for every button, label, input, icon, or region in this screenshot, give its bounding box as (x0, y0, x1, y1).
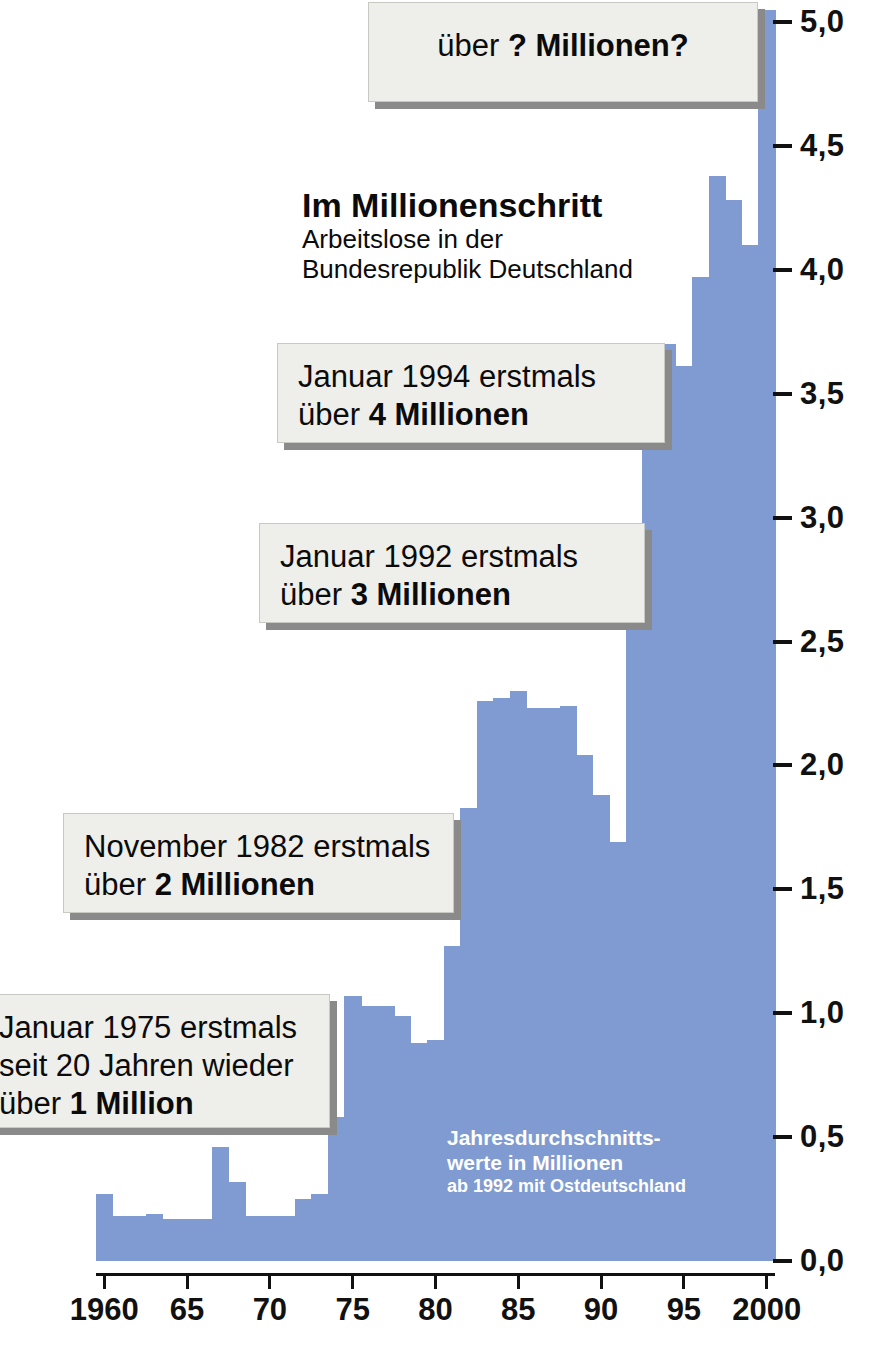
y-tick-label-0-0: 0,0 (800, 1245, 845, 1276)
bar-1994 (659, 344, 676, 1261)
callout-question: über ? Millionen? (368, 2, 758, 102)
bar-1978 (394, 1016, 411, 1261)
y-tick-mark-2-5 (773, 640, 792, 644)
bar-1971 (278, 1216, 295, 1261)
bar-1969 (245, 1216, 262, 1261)
bar-1961 (113, 1216, 130, 1261)
x-tick-mark-1985 (517, 1273, 520, 1289)
callout-1982-emphasis: 2 Millionen (155, 867, 315, 902)
callout-1992: Januar 1992 erstmals über 3 Millionen (259, 523, 645, 623)
footnote-line3: ab 1992 mit Ostdeutschland (447, 1176, 686, 1197)
footnote-line2: werte in Millionen (447, 1151, 686, 1176)
callout-1994-emphasis: 4 Millionen (369, 397, 529, 432)
y-tick-mark-0-5 (773, 1135, 792, 1139)
callout-1992-text: über (280, 577, 351, 612)
y-tick-mark-0-0 (773, 1259, 792, 1263)
x-tick-label-1960: 1960 (70, 1294, 139, 1325)
callout-1975-line3: über 1 Million (0, 1085, 309, 1123)
callout-1994-line2: über 4 Millionen (298, 396, 644, 434)
y-tick-mark-2-0 (773, 763, 792, 767)
bar-1974 (328, 1117, 345, 1261)
y-tick-label-5-0: 5,0 (800, 6, 845, 37)
x-tick-label-1985: 85 (501, 1294, 535, 1325)
x-tick-label-1990: 90 (584, 1294, 618, 1325)
bar-1965 (179, 1219, 196, 1261)
bar-1980 (427, 1040, 444, 1261)
x-tick-mark-1965 (186, 1273, 189, 1289)
y-tick-label-2-5: 2,5 (800, 626, 845, 657)
callout-question-text: über (437, 28, 508, 63)
y-tick-label-4-0: 4,0 (800, 254, 845, 285)
callout-1994: Januar 1994 erstmals über 4 Millionen (277, 343, 665, 443)
callout-1982-line1: November 1982 erstmals (84, 828, 433, 866)
bar-1967 (212, 1147, 229, 1261)
bar-1999 (742, 245, 759, 1261)
callout-1975: Januar 1975 erstmals seit 20 Jahren wied… (0, 994, 330, 1128)
x-tick-mark-1975 (351, 1273, 354, 1289)
callout-1982-line2: über 2 Millionen (84, 866, 433, 904)
callout-1975-line1: Januar 1975 erstmals (0, 1009, 309, 1047)
bar-1975 (344, 996, 361, 1261)
y-tick-label-3-5: 3,5 (800, 378, 845, 409)
bar-1964 (162, 1219, 179, 1261)
footnote-line1: Jahresdurchschnitts- (447, 1126, 686, 1151)
x-tick-mark-1970 (268, 1273, 271, 1289)
x-tick-label-1980: 80 (418, 1294, 452, 1325)
callout-1992-emphasis: 3 Millionen (351, 577, 511, 612)
x-tick-label-1970: 70 (253, 1294, 287, 1325)
y-tick-mark-4-5 (773, 144, 792, 148)
y-tick-label-2-0: 2,0 (800, 749, 845, 780)
callout-question-emphasis: ? Millionen? (508, 28, 689, 63)
bar-1966 (195, 1219, 212, 1261)
bar-1981 (444, 946, 461, 1261)
bar-1996 (692, 277, 709, 1261)
chart-subtitle-line1: Arbeitslose in der (302, 224, 633, 254)
x-tick-mark-1990 (600, 1273, 603, 1289)
bar-1997 (709, 176, 726, 1261)
y-tick-label-3-0: 3,0 (800, 502, 845, 533)
x-tick-mark-2000 (765, 1273, 768, 1289)
bar-1973 (311, 1194, 328, 1261)
y-tick-mark-5-0 (773, 20, 792, 24)
callout-question-line1: über ? Millionen? (389, 17, 737, 76)
callout-1994-text: über (298, 397, 369, 432)
infographic-chart: 0,00,51,01,52,02,53,03,54,04,55,0 196065… (0, 0, 870, 1356)
y-tick-label-1-0: 1,0 (800, 997, 845, 1028)
bar-1976 (361, 1006, 378, 1261)
bar-1960 (96, 1194, 113, 1261)
x-tick-mark-1960 (103, 1273, 106, 1289)
y-tick-label-4-5: 4,5 (800, 130, 845, 161)
y-tick-mark-3-0 (773, 516, 792, 520)
callout-1992-line2: über 3 Millionen (280, 576, 624, 614)
callout-1992-line1: Januar 1992 erstmals (280, 538, 624, 576)
x-tick-mark-1980 (434, 1273, 437, 1289)
callout-1975-text: über (0, 1086, 70, 1121)
y-tick-mark-1-0 (773, 1011, 792, 1015)
x-tick-label-2000: 2000 (732, 1294, 801, 1325)
callout-1975-emphasis: 1 Million (70, 1086, 194, 1121)
bar-1962 (129, 1216, 146, 1261)
bar-1979 (411, 1043, 428, 1261)
chart-subtitle-line2: Bundesrepublik Deutschland (302, 254, 633, 284)
y-tick-label-0-5: 0,5 (800, 1121, 845, 1152)
bar-2000 (758, 10, 775, 1261)
bar-1972 (295, 1199, 312, 1261)
x-tick-mark-1995 (682, 1273, 685, 1289)
y-tick-label-1-5: 1,5 (800, 873, 845, 904)
callout-1982: November 1982 erstmals über 2 Millionen (63, 813, 454, 913)
chart-headline: Im Millionenschritt Arbeitslose in der B… (302, 186, 633, 284)
bar-1977 (378, 1006, 395, 1261)
chart-footnote: Jahresdurchschnitts- werte in Millionen … (447, 1126, 686, 1197)
x-tick-label-1975: 75 (335, 1294, 369, 1325)
bar-1991 (609, 842, 626, 1261)
y-tick-mark-1-5 (773, 887, 792, 891)
callout-1994-line1: Januar 1994 erstmals (298, 358, 644, 396)
y-tick-mark-3-5 (773, 392, 792, 396)
bar-1998 (725, 200, 742, 1261)
callout-1982-text: über (84, 867, 155, 902)
y-tick-mark-4-0 (773, 268, 792, 272)
bar-1970 (262, 1216, 279, 1261)
x-tick-label-1995: 95 (667, 1294, 701, 1325)
page-title: Im Millionenschritt (302, 186, 633, 224)
callout-1975-line2: seit 20 Jahren wieder (0, 1047, 309, 1085)
